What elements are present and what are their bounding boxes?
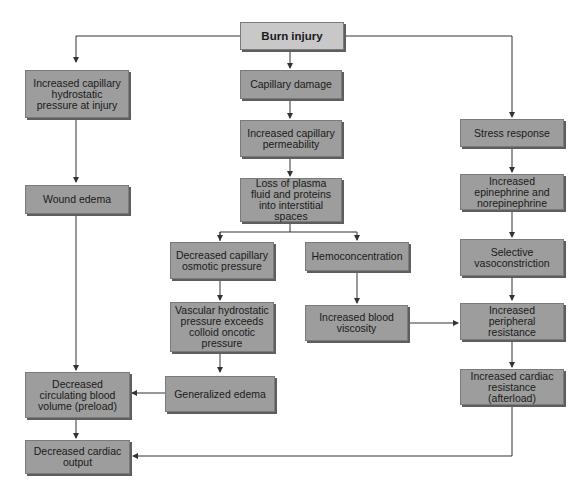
node-stress-response: Stress response (460, 119, 564, 147)
node-wound-edema: Wound edema (25, 185, 129, 214)
node-vascular-hydrostatic: Vascular hydrostatic pressure exceeds co… (170, 302, 274, 352)
node-generalized-edema: Generalized edema (165, 376, 275, 412)
node-increased-blood-viscosity: Increased blood viscosity (305, 305, 408, 341)
node-selective-vasoconstriction: Selective vasoconstriction (460, 239, 564, 276)
node-loss-of-plasma: Loss of plasma fluid and proteins into i… (240, 178, 342, 222)
node-increased-capillary-permeability: Increased capillary permeability (240, 120, 342, 157)
node-hemoconcentration: Hemoconcentration (305, 242, 409, 271)
node-increased-peripheral-resistance: Increased peripheral resistance (460, 303, 564, 340)
node-decreased-circulating-volume: Decreased circulating blood volume (prel… (25, 372, 130, 418)
node-increased-cardiac-resistance: Increased cardiac resistance (afterload) (460, 369, 564, 405)
node-increased-capillary-hydrostatic: Increased capillary hydrostatic pressure… (25, 70, 129, 118)
node-increased-epinephrine: Increased epinephrine and norepinephrine (460, 174, 564, 210)
node-capillary-damage: Capillary damage (240, 70, 342, 99)
node-decreased-capillary-osmotic: Decreased capillary osmotic pressure (170, 242, 274, 279)
node-decreased-cardiac-output: Decreased cardiac output (25, 440, 130, 474)
node-burn-injury: Burn injury (240, 22, 344, 50)
